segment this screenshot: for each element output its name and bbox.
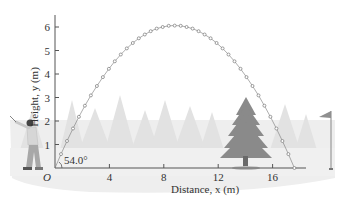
trajectory-point [209, 37, 212, 40]
trajectory-point [269, 115, 272, 118]
y-tick-2: 2 [45, 115, 51, 127]
trajectory-point [221, 47, 224, 50]
trajectory-point [101, 76, 104, 79]
trajectory-point [149, 30, 152, 33]
trajectory-point [72, 127, 75, 130]
x-axis-label: Distance, x (m) [171, 183, 239, 196]
trajectory-point [83, 104, 86, 107]
x-tick-16: 16 [267, 171, 279, 183]
trajectory-point [155, 27, 158, 30]
trajectory-point [263, 104, 266, 107]
trajectory-point [60, 153, 63, 156]
y-tick-4: 4 [45, 68, 51, 80]
trajectory-point [179, 24, 182, 27]
trajectory-point [89, 94, 92, 97]
background-scene [10, 95, 335, 193]
trajectory-point [227, 53, 230, 56]
projectile-figure: 1 2 3 4 5 6 O 4 8 12 16 Distance, x (m) … [0, 0, 355, 202]
trajectory-point [287, 153, 290, 156]
angle-label: 54.0° [64, 154, 88, 166]
x-tick-12: 12 [213, 171, 224, 183]
trajectory-point [251, 85, 254, 88]
trajectory-point [77, 115, 80, 118]
trajectory-point [125, 47, 128, 50]
trajectory-point [197, 30, 200, 33]
origin-label: O [43, 171, 51, 183]
trajectory-point [161, 26, 164, 29]
trajectory-point [167, 24, 170, 27]
trajectory-point [119, 53, 122, 56]
trajectory-point [233, 60, 236, 63]
trajectory-point [143, 33, 146, 36]
trajectory-point [245, 76, 248, 79]
y-axis-label: Height, y (m) [28, 67, 41, 127]
trajectory-point [107, 67, 110, 70]
trajectory-point [137, 37, 140, 40]
trajectory-point [203, 33, 206, 36]
trajectory-point [66, 140, 69, 143]
trajectory-point [191, 27, 194, 30]
trajectory-point [131, 42, 134, 45]
trajectory-point [239, 67, 242, 70]
y-tick-6: 6 [45, 21, 51, 33]
trajectory-point [185, 26, 188, 29]
x-tick-4: 4 [107, 171, 113, 183]
x-tick-8: 8 [161, 171, 167, 183]
trajectory-point [257, 94, 260, 97]
y-tick-3: 3 [45, 92, 51, 104]
y-tick-1: 1 [45, 139, 51, 151]
y-tick-5: 5 [45, 45, 51, 57]
trajectory-point [113, 60, 116, 63]
trajectory-point [281, 140, 284, 143]
trajectory-point [173, 24, 176, 27]
trajectory-point [275, 127, 278, 130]
trajectory-point [215, 42, 218, 45]
trajectory-point [95, 85, 98, 88]
trajectory-point [293, 167, 296, 170]
